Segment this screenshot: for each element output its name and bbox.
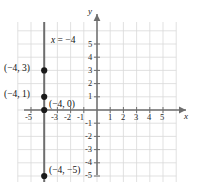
y-tick-label-3: 3 [88, 66, 92, 75]
y-axis [94, 14, 101, 175]
y-tick-label--5: -5 [85, 171, 92, 180]
point-label-neg4-neg5: (−4, −5) [49, 166, 80, 176]
x-axis-label: x [184, 112, 188, 121]
x-tick-label-3: 3 [134, 113, 138, 122]
equation-rest: = −4 [55, 35, 75, 45]
y-tick-label--1: -1 [85, 119, 92, 128]
x-tick-label--3: -3 [51, 113, 58, 122]
x-tick-label-4: 4 [147, 113, 151, 122]
y-axis-label: y [88, 7, 92, 16]
equation-label: x = −4 [51, 36, 75, 46]
y-tick-label-1: 1 [88, 92, 92, 101]
point-neg4-3 [41, 67, 47, 73]
x-tick-label--2: -2 [64, 113, 71, 122]
y-tick-label-2: 2 [88, 79, 92, 88]
y-tick-label-5: 5 [88, 40, 92, 49]
x-tick-label-2: 2 [121, 113, 125, 122]
x-tick-label-5: 5 [160, 113, 164, 122]
x-tick-label--5: -5 [25, 113, 32, 122]
point-neg4-0 [41, 107, 47, 113]
point-label-neg4-1: (−4, 1) [4, 90, 30, 100]
point-neg4-neg5 [41, 173, 47, 179]
point-neg4-1 [41, 94, 47, 100]
point-label-neg4-0: (−4, 0) [49, 100, 75, 110]
y-tick-label--3: -3 [85, 145, 92, 154]
y-tick-label--2: -2 [85, 132, 92, 141]
point-label-neg4-3: (−4, 3) [4, 64, 30, 74]
coordinate-plane-figure: x = −4 y x -5 -3 -2 -1 1 2 3 4 5 1 2 3 4… [0, 0, 199, 192]
y-tick-label-4: 4 [88, 53, 92, 62]
y-tick-label--4: -4 [85, 158, 92, 167]
x-tick-label--1: -1 [77, 113, 84, 122]
x-tick-label-1: 1 [108, 113, 112, 122]
